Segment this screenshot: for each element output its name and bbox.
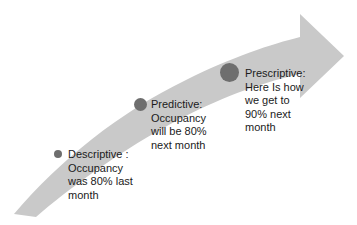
stage-label-predictive: Predictive: Occupancy will be 80% next m… <box>151 98 207 152</box>
stage-marker-prescriptive <box>220 63 239 82</box>
stage-label-descriptive: Descriptive : Occupancy was 80% last mon… <box>68 148 133 202</box>
stage-marker-descriptive <box>54 150 62 158</box>
diagram-canvas: Descriptive : Occupancy was 80% last mon… <box>0 0 357 225</box>
stage-marker-predictive <box>134 98 147 111</box>
stage-label-prescriptive: Prescriptive: Here Is how we get to 90% … <box>245 67 306 135</box>
